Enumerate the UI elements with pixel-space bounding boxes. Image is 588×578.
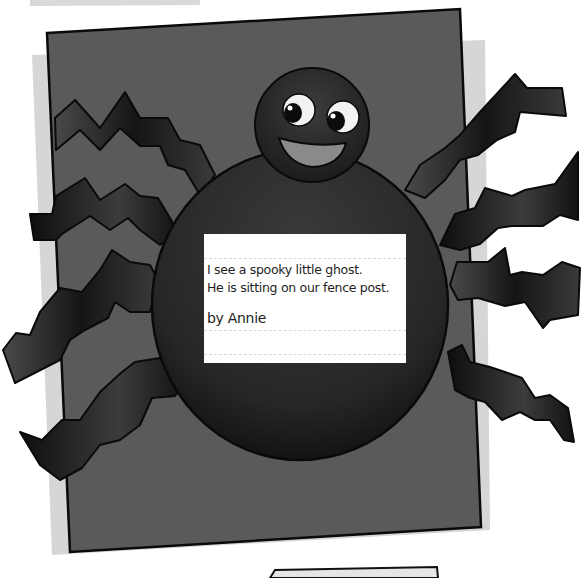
card-ruled-line — [204, 354, 406, 355]
next-card-edge — [270, 567, 438, 578]
card-ruled-line — [204, 330, 406, 331]
card-ruled-line — [204, 258, 406, 259]
poem-author: by Annie — [207, 309, 406, 327]
eye-left — [283, 94, 315, 126]
spider-head — [255, 68, 369, 182]
poem-line-2: He is sitting on our fence post. — [207, 279, 406, 297]
shadow-paper-top — [30, 0, 200, 6]
eye-right — [327, 101, 359, 133]
poem-line-1: I see a spooky little ghost. — [207, 261, 406, 279]
poem-card: I see a spooky little ghost. He is sitti… — [204, 234, 406, 363]
